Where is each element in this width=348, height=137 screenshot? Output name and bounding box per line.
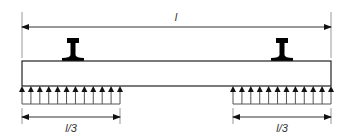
arrow-head-icon — [99, 86, 105, 92]
arrow-head-icon — [55, 86, 61, 92]
arrow-head-icon — [319, 86, 325, 92]
arrow-head-icon — [37, 86, 43, 92]
arrow-head-icon — [28, 86, 34, 92]
arrow-head-icon — [292, 86, 298, 92]
arrow-head-icon — [230, 86, 236, 92]
right-support-arrows — [230, 86, 334, 104]
arrow-head-icon — [283, 86, 289, 92]
arrow-head-icon — [328, 86, 334, 92]
arrow-head-icon — [108, 86, 114, 92]
left-rail-icon — [62, 38, 84, 61]
left-support-label: l/3 — [65, 122, 78, 134]
right-support-label: l/3 — [276, 122, 289, 134]
arrow-head-icon — [257, 86, 263, 92]
arrow-head-icon — [310, 86, 316, 92]
arrow-head-icon — [239, 86, 245, 92]
arrow-head-icon — [72, 86, 78, 92]
arrow-head-icon — [46, 86, 52, 92]
right-support-dimension: l/3 — [233, 108, 331, 134]
arrow-head-icon — [81, 86, 87, 92]
arrow-head-icon — [248, 86, 254, 92]
span-dimension: l — [22, 11, 331, 58]
arrow-head-icon — [19, 86, 25, 92]
right-rail-icon — [271, 38, 293, 61]
beam-diagram: l l/3 l/3 — [0, 0, 348, 137]
arrow-head-icon — [64, 86, 70, 92]
arrow-head-icon — [301, 86, 307, 92]
arrow-head-icon — [275, 86, 281, 92]
arrow-head-icon — [266, 86, 272, 92]
span-label: l — [175, 11, 178, 23]
left-support-dimension: l/3 — [22, 108, 120, 134]
left-support-arrows — [19, 86, 123, 104]
arrow-head-icon — [90, 86, 96, 92]
beam — [22, 61, 331, 86]
arrow-head-icon — [117, 86, 123, 92]
